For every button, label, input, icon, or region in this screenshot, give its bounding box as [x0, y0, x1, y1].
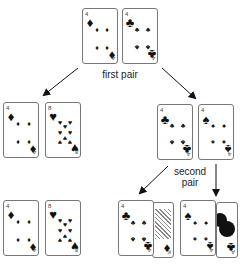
spade-icon: ♠: [193, 236, 197, 243]
heart-icon: ♥: [68, 129, 72, 136]
heart-icon: ♥: [58, 119, 62, 126]
card-top-4-diamonds: 4 ♦ ♦ ♦ ♦ ♦ ♦ 4: [82, 8, 118, 64]
club-icon: ♣: [170, 122, 175, 129]
card-mid-4-spades: 4 ♠ ♠ ♠ ♠ ♠ ♠ 4: [198, 104, 234, 160]
diamond-icon: ♦: [95, 44, 99, 51]
club-icon: ♣: [122, 209, 131, 222]
spade-icon: ♠: [204, 219, 208, 226]
heart-icon: ♥: [58, 227, 62, 234]
club-icon: ♣: [126, 16, 135, 29]
diamond-icon: ♦: [87, 16, 94, 29]
heart-icon: ♥: [63, 233, 67, 240]
card-bottom-k-diamonds: ♦ K: [152, 202, 174, 258]
club-icon: ♣: [170, 139, 175, 146]
diamond-icon: ♦: [27, 218, 31, 225]
diamond-icon: ♦: [8, 110, 15, 123]
spade-icon: ♠: [203, 113, 210, 126]
club-icon: ♣: [181, 122, 186, 129]
heart-icon: ♥: [63, 135, 67, 142]
diamond-icon: ♦: [16, 120, 20, 127]
diamond-icon: ♦: [16, 218, 20, 225]
diamond-icon: ♦: [8, 208, 15, 221]
card-mid-4-clubs: 4 ♣ ♣ ♣ ♣ ♣ ♣ 4: [157, 104, 193, 160]
club-icon: ♣: [146, 26, 151, 33]
arrow-first-pair-left: [44, 68, 78, 95]
spade-icon: ♠: [222, 122, 226, 129]
heart-icon: ♥: [49, 208, 57, 221]
heart-icon: ♥: [68, 227, 72, 234]
diamond-icon: ♦: [27, 120, 31, 127]
club-icon: ♣: [131, 219, 136, 226]
heart-icon: ♥: [68, 119, 72, 126]
club-icon: ♣: [135, 26, 140, 33]
heart-icon: ♥: [63, 221, 67, 228]
card-bottom-a-clubs: ♣ A: [216, 202, 238, 258]
heart-icon: ♥: [58, 237, 62, 244]
card-mid-4-diamonds: 4 ♦ ♦ ♦ ♦ ♦ ♦ 4: [3, 102, 39, 158]
heart-icon: ♥: [63, 123, 67, 130]
club-icon: [219, 221, 235, 237]
card-mid-8-hearts: 8 ♥ ♥ ♥ ♥ ♥ ♥ ♥ ♥ ♥ ♥ 8: [45, 102, 81, 158]
club-icon: ♣: [131, 236, 136, 243]
card-bottom-4-diamonds: 4 ♦ ♦ ♦ ♦ ♦ ♦ 4: [3, 200, 39, 256]
spade-icon: ♠: [185, 209, 192, 222]
card-top-4-clubs: 4 ♣ ♣ ♣ ♣ ♣ ♣ 4: [122, 8, 158, 64]
second-pair-label: second pair: [168, 166, 212, 188]
heart-icon: ♥: [68, 217, 72, 224]
arrow-second-pair-left: [140, 166, 168, 193]
spade-icon: ♠: [193, 219, 197, 226]
spade-icon: ♠: [211, 139, 215, 146]
heart-icon: ♥: [58, 129, 62, 136]
card-bottom-8-hearts: 8 ♥ ♥ ♥ ♥ ♥ ♥ ♥ ♥ ♥ ♥ 8: [45, 200, 81, 256]
club-icon: ♣: [142, 219, 147, 226]
club-icon: ♣: [161, 113, 170, 126]
spade-icon: ♠: [211, 122, 215, 129]
first-pair-label: first pair: [95, 69, 145, 80]
diamond-icon: ♦: [16, 138, 20, 145]
card-bottom-4-spades: 4 ♠ ♠ ♠ ♠ ♠ ♠ 4: [180, 200, 216, 256]
heart-icon: ♥: [49, 110, 57, 123]
diamond-icon: ♦: [95, 26, 99, 33]
diamond-icon: ♦: [105, 26, 109, 33]
heart-icon: ♥: [58, 139, 62, 146]
card-bottom-4-clubs: 4 ♣ ♣ ♣ ♣ ♣ ♣ 4: [118, 200, 154, 256]
diamond-icon: ♦: [16, 236, 20, 243]
club-icon: ♣: [135, 44, 140, 51]
arrow-first-pair-right: [162, 68, 195, 98]
heart-icon: ♥: [58, 217, 62, 224]
face-card-art: [155, 209, 171, 239]
